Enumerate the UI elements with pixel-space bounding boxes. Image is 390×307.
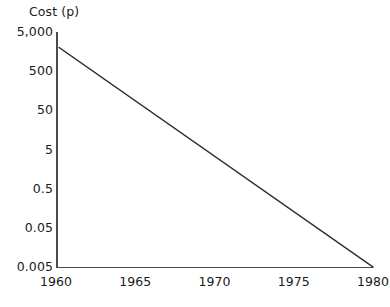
plot-area [0,0,390,307]
data-series-line-cost [59,48,373,267]
cost-per-bit-line-chart: Cost (p) 5,0005005050.50.050.005 1960196… [0,0,390,307]
